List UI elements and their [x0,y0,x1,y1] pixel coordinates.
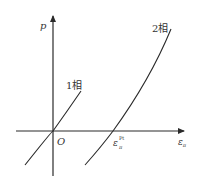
intercept-label: ε [113,138,118,148]
phase-1-label: 1相 [66,79,82,91]
phase-2-curve [85,29,171,165]
intercept-superscript: Pt [119,135,124,141]
phase-diagram: p O 1相 2相 επ ε Pt π [0,0,199,182]
intercept-subscript: π [118,144,123,150]
phase-2-label: 2相 [152,22,168,34]
origin-label: O [57,136,65,147]
y-axis-label: p [40,20,47,31]
x-axis-label: επ [178,137,187,148]
